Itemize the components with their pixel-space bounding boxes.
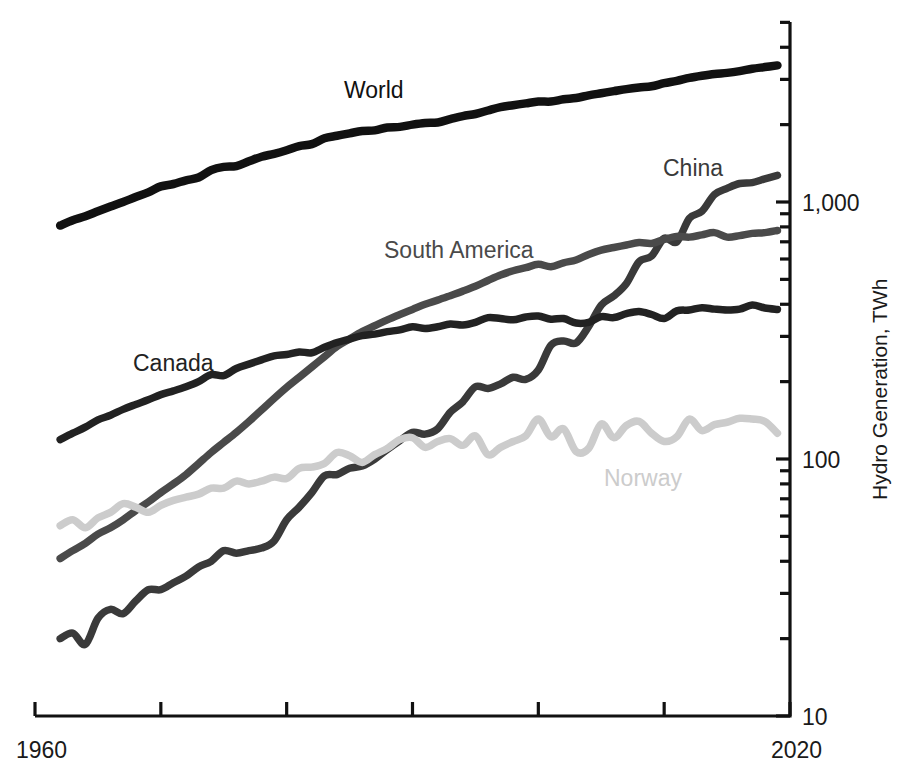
series-label-world: World: [344, 77, 404, 103]
x-tick-label-end: 2020: [771, 737, 822, 763]
series-label-china: China: [663, 155, 723, 181]
chart-svg: 1,00010010 1960 2020 WorldChinaSouth Ame…: [0, 0, 901, 768]
x-tick-label-start: 1960: [16, 737, 67, 763]
hydro-generation-chart: 1,00010010 1960 2020 WorldChinaSouth Ame…: [0, 0, 901, 768]
y-axis-tick-labels: 1,00010010: [802, 190, 860, 730]
y-tick-label: 100: [802, 447, 840, 473]
y-tick-label: 1,000: [802, 190, 860, 216]
series-label-south-america: South America: [384, 237, 534, 263]
x-axis-ticks: [35, 702, 790, 716]
series-line-world: [60, 65, 777, 225]
y-tick-label: 10: [802, 704, 828, 730]
series-label-norway: Norway: [604, 465, 682, 491]
y-axis-title: Hydro Generation, TWh: [868, 279, 891, 500]
series-label-canada: Canada: [133, 350, 214, 376]
y-axis-ticks: [776, 22, 790, 716]
series-labels: WorldChinaSouth AmericaCanadaNorway: [133, 77, 723, 491]
